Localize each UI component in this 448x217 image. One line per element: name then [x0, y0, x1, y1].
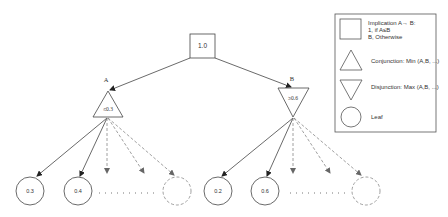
- edge-a-to-leaf-1: [37, 118, 107, 176]
- leaf-a-1: 0.3: [16, 177, 44, 205]
- legend-disjunction: Disjunction: Max (A,B, ...): [371, 84, 439, 90]
- leaf-value: 0.2: [214, 188, 222, 194]
- leaf-value: 0.3: [26, 188, 34, 194]
- leaf-value: 0.6: [261, 188, 269, 194]
- node-b-label: B: [290, 75, 295, 82]
- edge-b-to-leaf-1: [222, 118, 293, 176]
- leaf-value: 0.4: [74, 188, 82, 194]
- edge-a-to-leaf-2: [80, 118, 107, 176]
- edge-b-dashed-2: [294, 118, 330, 173]
- conjunction-node-a: A ≤0.3: [93, 76, 123, 117]
- node-b-value: ≥0.6: [288, 95, 298, 101]
- edge-b-to-leaf-2: [267, 118, 293, 176]
- legend-circle-icon: [341, 107, 361, 127]
- leaf-b-placeholder: [352, 177, 380, 205]
- legend-implication-line2: 1, if A≤B: [368, 27, 390, 33]
- leaf-a-2: 0.4: [64, 177, 92, 205]
- legend-implication-line3: B, Otherwise: [368, 34, 403, 40]
- edge-a-dashed-3: [108, 118, 174, 175]
- edge-root-to-b: [215, 58, 291, 87]
- node-a-value: ≤0.3: [103, 106, 113, 112]
- legend-square-icon: [340, 19, 361, 39]
- edge-root-to-a: [110, 58, 190, 90]
- node-a-label: A: [104, 76, 109, 83]
- legend-conjunction: Conjunction: Min (A,B, ...): [371, 58, 439, 64]
- legend-leaf: Leaf: [371, 114, 383, 120]
- leaf-b-2: 0.6: [251, 177, 279, 205]
- leaf-a-placeholder: [163, 177, 191, 205]
- root-value: 1.0: [198, 42, 207, 49]
- fuzzy-logic-tree-diagram: 1.0 A ≤0.3 B ≥0.6 0.3 0.4 0.2 0.: [0, 0, 448, 217]
- legend-implication-line1: Implication A→ B:: [368, 20, 416, 26]
- disjunction-node-b: B ≥0.6: [278, 75, 309, 117]
- leaf-b-1: 0.2: [204, 177, 232, 205]
- legend: Implication A→ B: 1, if A≤B B, Otherwise…: [335, 14, 439, 132]
- edge-a-dashed-2: [108, 118, 144, 173]
- root-implication-node: 1.0: [190, 34, 215, 58]
